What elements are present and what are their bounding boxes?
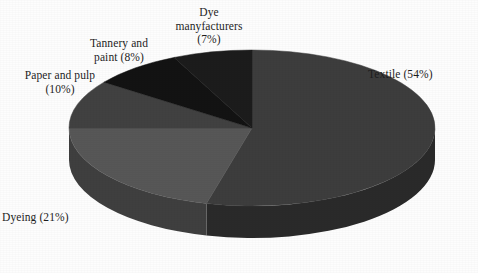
slice-label-dye-manyfacturers: Dye manyfacturers (7%) — [157, 6, 261, 47]
slice-label-paper-and-pulp: Paper and pulp (10%) — [4, 69, 116, 96]
slice-label-dyeing: Dyeing (21%) — [2, 211, 112, 225]
slice-label-textile: Textile (54%) — [368, 68, 476, 82]
pie-chart-figure: Textile (54%) Dyeing (21%) Paper and pul… — [0, 0, 478, 273]
